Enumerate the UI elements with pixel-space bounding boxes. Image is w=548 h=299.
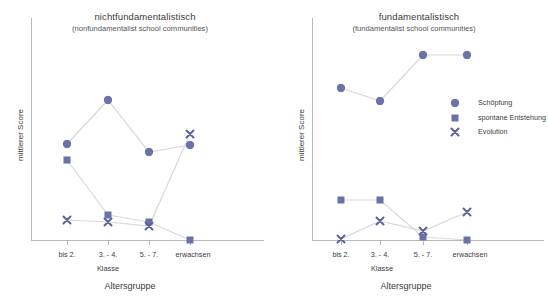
data-point-spontane-entstehung [463,236,471,244]
x-tick-label: 3. - 4. [371,250,389,259]
data-point-evolution [103,217,113,227]
data-point-evolution [418,226,428,236]
legend-label: Schöpfung [478,98,512,107]
x-tick-label: erwachsen [176,250,211,259]
x-tick-label: 5. - 7. [140,250,158,259]
series-lines [0,0,274,299]
y-axis-label: mittlerer Score [16,109,25,161]
data-point-evolution [336,234,346,244]
line-evolution [341,212,467,239]
x-axis-secondary-label: Klasse [371,264,393,273]
x-tick-label: 5. - 7. [414,250,432,259]
data-point-schoepfung [145,148,154,157]
line-spontane-entstehung [67,160,190,240]
x-axis-secondary-label: Klasse [97,264,119,273]
data-point-schoepfung [186,141,195,150]
data-point-spontane-entstehung [376,196,384,204]
data-point-spontane-entstehung [186,236,194,244]
chart-panel-fundamentalist: fundamentalistisch (fundamentalist schoo… [274,0,548,299]
data-point-evolution [462,207,472,217]
x-tick-label: bis 2. [58,250,75,259]
data-point-schoepfung [376,97,385,106]
series-lines [274,0,548,299]
x-tick-label: erwachsen [453,250,488,259]
legend-label: Evolution [478,127,508,136]
data-point-schoepfung [419,51,428,60]
x-tick-label: 3. - 4. [99,250,117,259]
y-axis-label: mittlerer Score [297,109,306,161]
data-point-evolution [375,216,385,226]
line-schoepfung [67,100,190,152]
data-point-evolution [62,215,72,225]
line-schoepfung [341,55,467,101]
circle-marker-icon [451,99,460,108]
legend-label: spontane Entstehung [478,113,546,122]
data-point-schoepfung [337,84,346,93]
x-marker-icon [450,127,461,138]
figure-root: nichtfundamentalistisch (nonfundamentali… [0,0,548,299]
x-axis-label: Altersgruppe [104,281,155,291]
data-point-schoepfung [104,96,113,105]
x-axis-label: Altersgruppe [380,281,431,291]
data-point-schoepfung [463,51,472,60]
data-point-spontane-entstehung [337,196,345,204]
data-point-evolution [144,221,154,231]
x-tick-label: bis 2. [332,250,349,259]
chart-panel-nonfundamentalist: nichtfundamentalistisch (nonfundamentali… [0,0,274,299]
data-point-spontane-entstehung [63,156,71,164]
data-point-schoepfung [63,140,72,149]
square-marker-icon [451,114,459,122]
data-point-evolution [185,129,195,139]
